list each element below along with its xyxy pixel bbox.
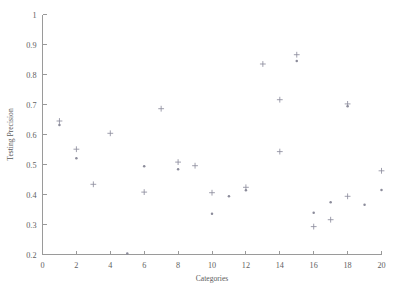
data-point: [209, 190, 215, 196]
data-point: [311, 224, 317, 230]
data-point: [192, 163, 198, 169]
data-point: [74, 146, 80, 152]
data-point: [328, 217, 334, 223]
data-point: [312, 212, 315, 215]
y-tick-label: 0.2: [26, 251, 36, 260]
data-point: [294, 52, 300, 58]
y-tick-label: 0.6: [26, 131, 36, 140]
x-tick-label: 14: [276, 261, 284, 270]
x-tick-label: 8: [176, 261, 180, 270]
x-tick-label: 4: [108, 261, 112, 270]
data-point: [175, 159, 181, 165]
data-point-group: [57, 52, 385, 255]
y-tick-label: 0.9: [26, 41, 36, 50]
y-tick-label: 0.7: [26, 101, 36, 110]
plot-canvas: 0.20.30.40.50.60.70.80.91024681012141618…: [0, 0, 399, 291]
data-point: [75, 157, 78, 160]
y-tick-label: 0.8: [26, 71, 36, 80]
data-point: [260, 61, 266, 67]
x-tick-label: 16: [310, 261, 318, 270]
data-point: [90, 181, 96, 187]
data-point: [346, 105, 349, 108]
data-point: [211, 212, 214, 215]
data-point: [379, 168, 385, 174]
data-point: [277, 97, 283, 103]
y-tick-label: 0.3: [26, 221, 36, 230]
x-axis-title: Categories: [196, 274, 229, 283]
x-tick-label: 6: [142, 261, 146, 270]
data-point: [58, 124, 61, 127]
data-point: [296, 60, 299, 63]
x-tick-label: 2: [74, 261, 78, 270]
x-tick-label: 0: [40, 261, 44, 270]
data-point: [245, 189, 248, 192]
data-point: [158, 106, 164, 112]
x-tick-label: 10: [208, 261, 216, 270]
data-point: [380, 189, 383, 192]
x-tick-label: 18: [344, 261, 352, 270]
x-tick-label: 12: [242, 261, 250, 270]
data-point: [329, 201, 332, 204]
y-axis-title: Testing Precision: [6, 108, 15, 161]
y-tick-label: 1: [32, 11, 36, 20]
data-point: [57, 118, 63, 124]
data-point: [141, 189, 147, 195]
data-point: [345, 193, 351, 199]
data-point: [363, 203, 366, 206]
data-point: [277, 149, 283, 155]
data-point: [143, 165, 146, 168]
data-point: [126, 252, 129, 255]
y-tick-label: 0.4: [26, 191, 36, 200]
data-point: [177, 168, 180, 171]
scatter-chart-figure: 0.20.30.40.50.60.70.80.91024681012141618…: [0, 0, 399, 291]
x-tick-label: 20: [377, 261, 385, 270]
y-tick-label: 0.5: [26, 161, 36, 170]
data-point: [107, 130, 113, 136]
data-point: [228, 195, 231, 198]
